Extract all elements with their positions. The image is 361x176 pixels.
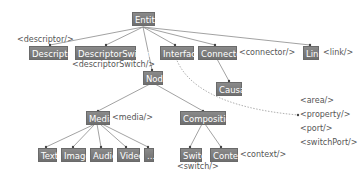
tag-switchport: <switchPort/> [300, 138, 358, 148]
edge-composition-switch [190, 124, 202, 147]
node-connector: Connector [198, 46, 237, 60]
node-video: Video [117, 148, 140, 162]
edge-node-composition [155, 84, 203, 111]
node-switch: Switch [180, 148, 202, 162]
node-causal: Causal [216, 82, 242, 96]
edge-media-audio [97, 124, 101, 147]
tag-port: <port/> [300, 124, 333, 134]
tag-descriptorswitch: <descriptorSwitch/> [72, 60, 155, 70]
node-image: Image [61, 148, 86, 162]
tag-connector: <connector/> [239, 48, 295, 58]
node-interface: Interface [160, 46, 194, 60]
edge-media-image [73, 124, 95, 147]
edge-media-video [100, 124, 126, 147]
edge-media-more [102, 124, 148, 147]
tag-context: <context/> [240, 150, 286, 160]
edge-connector-causal [217, 59, 229, 81]
tag-switch: <switch/> [177, 162, 219, 172]
edge-entity-connector [143, 27, 215, 45]
entity-hierarchy-diagram: Entity Descriptor DescriptorSwitch Inter… [0, 0, 361, 176]
node-descriptorswitch: DescriptorSwitch [75, 46, 136, 60]
node-text: Text [38, 148, 57, 162]
node-more: ... [144, 148, 154, 162]
node-composition: Composition [180, 111, 226, 125]
node-descriptor: Descriptor [29, 46, 68, 60]
tag-link: <link/> [323, 48, 353, 58]
tag-descriptor: <descriptor/> [17, 35, 74, 45]
node-media: Media [86, 111, 110, 125]
tag-property: <property/> [300, 110, 350, 120]
node-audio: Audio [90, 148, 113, 162]
node-context: Context [210, 148, 238, 162]
edge-entity-link [143, 27, 310, 45]
edge-entity-descriptorswitch [106, 27, 143, 45]
tag-media: <media/> [112, 113, 153, 123]
edge-media-text [46, 124, 95, 147]
node-link: Link [303, 46, 319, 60]
edge-node-media [98, 84, 150, 111]
node-entity: Entity [132, 12, 155, 26]
node-node: Node [143, 71, 163, 85]
tag-area: <area/> [300, 96, 334, 106]
edge-composition-context [205, 124, 221, 147]
